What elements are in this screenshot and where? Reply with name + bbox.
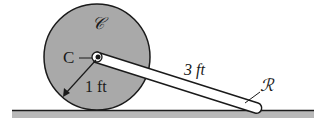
radius-label: 1 ft: [85, 78, 107, 95]
diagram-canvas: 𝒞 C 1 ft 3 ft ℛ: [0, 0, 319, 131]
ground: [12, 110, 314, 118]
center-label: C: [63, 48, 74, 67]
center-pin: [96, 55, 101, 60]
rod-length-label: 3 ft: [183, 61, 205, 79]
disk-rod-diagram: 𝒞 C 1 ft 3 ft ℛ: [0, 0, 319, 131]
rod-end-label: ℛ: [260, 75, 275, 95]
